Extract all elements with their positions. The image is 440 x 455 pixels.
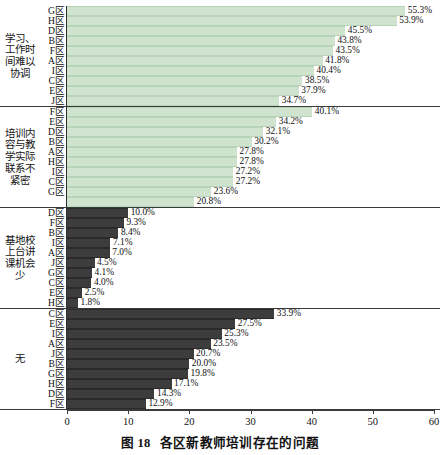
bar-row[interactable]: 19.8%	[67, 369, 440, 379]
bar-row[interactable]: 4.1%	[67, 268, 440, 278]
bar[interactable]	[67, 76, 302, 85]
bar-row[interactable]: 20.0%	[67, 359, 440, 369]
bar-row[interactable]: 43.8%	[67, 36, 440, 46]
bar-value-label: 4.1%	[95, 268, 115, 277]
bar-row[interactable]: 55.3%	[67, 6, 440, 16]
bar[interactable]	[67, 147, 237, 156]
bar-value-label: 33.9%	[277, 309, 301, 318]
bar-row[interactable]: 10.0%	[67, 208, 440, 218]
bar[interactable]	[67, 379, 172, 388]
bar-row[interactable]: 23.5%	[67, 339, 440, 349]
bar[interactable]	[67, 56, 323, 65]
bar[interactable]	[67, 329, 222, 338]
bar[interactable]	[67, 16, 397, 25]
bar[interactable]	[67, 228, 118, 237]
bar-row[interactable]: 40.1%	[67, 107, 440, 117]
chart-group: 无C区E区I区A区J区B区G区H区D区F区33.9%27.5%25.3%23.5…	[0, 309, 440, 410]
category-axis: F区E区D区B区A区H区I区C区G区	[40, 107, 67, 207]
bar[interactable]	[67, 66, 314, 75]
bar[interactable]	[67, 107, 312, 116]
bar[interactable]	[67, 137, 252, 146]
bar[interactable]	[67, 6, 405, 15]
x-axis-tick-label: 40	[306, 416, 317, 427]
bar[interactable]	[67, 167, 233, 176]
bar-row[interactable]: 23.6%	[67, 187, 440, 197]
bar-row[interactable]: 1.8%	[67, 298, 440, 308]
bar[interactable]	[67, 218, 124, 227]
bar-value-label: 43.5%	[336, 46, 360, 55]
x-axis-tick-label: 20	[184, 416, 195, 427]
bar-row[interactable]: 34.7%	[67, 96, 440, 106]
bar-value-label: 12.9%	[148, 399, 172, 408]
x-axis-tick-label: 0	[64, 416, 69, 427]
bar[interactable]	[67, 46, 333, 55]
bar[interactable]	[67, 96, 279, 105]
bar[interactable]	[67, 26, 345, 35]
bar-row[interactable]: 37.9%	[67, 86, 440, 96]
bar-row[interactable]: 53.9%	[67, 16, 440, 26]
bar-row[interactable]: 12.9%	[67, 399, 440, 409]
figure-number: 图 18	[121, 436, 151, 450]
bar-value-label: 27.2%	[236, 167, 260, 176]
bar-row[interactable]: 4.5%	[67, 258, 440, 268]
category-tick-label: J区	[40, 96, 66, 106]
group-label-text: 培训内容与教学实际联系不紧密	[3, 128, 37, 187]
bar-value-label: 7.1%	[113, 238, 133, 247]
bar[interactable]	[67, 36, 335, 45]
bar-row[interactable]: 20.8%	[67, 197, 440, 207]
bar[interactable]	[67, 349, 194, 358]
bar[interactable]	[67, 258, 95, 267]
bar-row[interactable]: 41.8%	[67, 56, 440, 66]
bar[interactable]	[67, 369, 188, 378]
bar-row[interactable]: 45.5%	[67, 26, 440, 36]
plot-area: 学习、工作时间难以协调G区H区D区B区F区A区I区C区E区J区55.3%53.9…	[0, 6, 440, 410]
bar-row[interactable]: 4.0%	[67, 278, 440, 288]
bar[interactable]	[67, 359, 189, 368]
bar[interactable]	[67, 288, 82, 297]
bar-value-label: 37.9%	[301, 86, 325, 95]
bar-row[interactable]: 43.5%	[67, 46, 440, 56]
bar-value-label: 40.4%	[317, 66, 341, 75]
category-tick-label: H区	[40, 298, 66, 308]
bar[interactable]	[67, 319, 235, 328]
bar[interactable]	[67, 208, 128, 217]
bar-row[interactable]: 38.5%	[67, 76, 440, 86]
bar[interactable]	[67, 399, 146, 408]
bar[interactable]	[67, 157, 237, 166]
bar-row[interactable]: 17.1%	[67, 379, 440, 389]
x-axis-tick	[251, 410, 252, 414]
bar-row[interactable]: 20.7%	[67, 349, 440, 359]
bar[interactable]	[67, 339, 211, 348]
bar[interactable]	[67, 248, 110, 257]
bar-value-label: 45.5%	[348, 26, 372, 35]
bar-row[interactable]: 7.0%	[67, 248, 440, 258]
bar[interactable]	[67, 187, 211, 196]
bar-row[interactable]: 27.2%	[67, 177, 440, 187]
bar-value-label: 2.5%	[85, 288, 105, 297]
category-axis: G区H区D区B区F区A区I区C区E区J区	[40, 6, 67, 106]
bar[interactable]	[67, 127, 263, 136]
bar-value-label: 38.5%	[305, 76, 329, 85]
bar-value-label: 32.1%	[266, 127, 290, 136]
bar[interactable]	[67, 86, 299, 95]
bar[interactable]	[67, 389, 154, 398]
bar-value-label: 9.3%	[126, 218, 146, 227]
bar[interactable]	[67, 197, 194, 206]
bar[interactable]	[67, 298, 78, 307]
bar-row[interactable]: 27.5%	[67, 319, 440, 329]
bar-row[interactable]: 34.2%	[67, 117, 440, 127]
bar-row[interactable]: 2.5%	[67, 288, 440, 298]
bar-row[interactable]: 40.4%	[67, 66, 440, 76]
group-label-text: 基地校上台讲课机会少	[3, 235, 37, 282]
bar-row[interactable]: 14.3%	[67, 389, 440, 399]
x-axis-tick	[312, 410, 313, 414]
bar[interactable]	[67, 177, 233, 186]
bar-value-label: 27.2%	[236, 177, 260, 186]
bar[interactable]	[67, 238, 110, 247]
bar-row[interactable]: 25.3%	[67, 329, 440, 339]
bar[interactable]	[67, 309, 274, 318]
bar[interactable]	[67, 278, 91, 287]
x-axis-tick-label: 10	[123, 416, 134, 427]
bar[interactable]	[67, 268, 92, 277]
bar[interactable]	[67, 117, 276, 126]
